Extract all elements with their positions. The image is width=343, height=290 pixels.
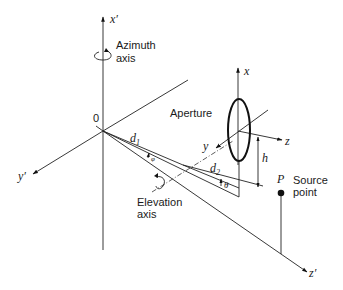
aperture-z-axis: z bbox=[238, 131, 290, 148]
d1-label: d1 bbox=[130, 131, 140, 147]
d2-label: d2 bbox=[210, 161, 220, 177]
z-prime-label: z′ bbox=[308, 266, 317, 280]
aperture-label: Aperture bbox=[170, 107, 212, 119]
h-dimension: h bbox=[258, 137, 268, 187]
elevation-label-line1: Elevation bbox=[137, 196, 182, 208]
svg-text:z: z bbox=[284, 134, 290, 148]
origin-label: 0 bbox=[93, 112, 99, 124]
source-label-line2: point bbox=[293, 186, 317, 198]
svg-text:y: y bbox=[202, 139, 209, 153]
svg-text:φ: φ bbox=[151, 155, 155, 163]
azimuth-label-line2: axis bbox=[116, 52, 136, 64]
aperture-ellipse bbox=[228, 99, 250, 161]
p-label: P bbox=[276, 172, 285, 186]
aperture-geometry-diagram: x′ Azimuth axis 0 y′ z′ d1 d2 φ θ bbox=[0, 0, 343, 290]
lower-ray-line bbox=[103, 131, 239, 197]
y-prime-axis: y′ bbox=[17, 80, 188, 183]
azimuth-label-line1: Azimuth bbox=[116, 39, 156, 51]
d1-line bbox=[103, 131, 183, 165]
z-prime-axis: z′ bbox=[103, 131, 317, 280]
source-label-line1: Source bbox=[293, 174, 328, 186]
svg-text:x: x bbox=[243, 64, 250, 78]
source-point: P Source point bbox=[276, 172, 328, 254]
x-prime-label: x′ bbox=[109, 12, 118, 26]
svg-text:θ: θ bbox=[224, 180, 229, 190]
source-point-dot bbox=[278, 190, 285, 197]
elevation-rotation-icon bbox=[154, 173, 164, 189]
phi-angle-marker: φ bbox=[148, 153, 155, 163]
svg-text:h: h bbox=[262, 151, 268, 165]
elevation-label-line2: axis bbox=[137, 208, 157, 220]
y-prime-label: y′ bbox=[17, 169, 26, 183]
